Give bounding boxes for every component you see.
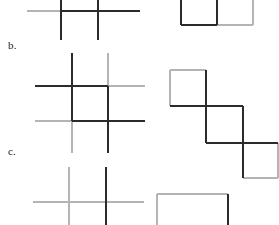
figure-panel: b. c.	[0, 0, 279, 225]
panel-label-c: c.	[8, 146, 16, 157]
figure-drawing-canvas	[0, 0, 279, 225]
panel-label-b: b.	[8, 40, 17, 51]
line-segment-group	[27, 0, 278, 225]
